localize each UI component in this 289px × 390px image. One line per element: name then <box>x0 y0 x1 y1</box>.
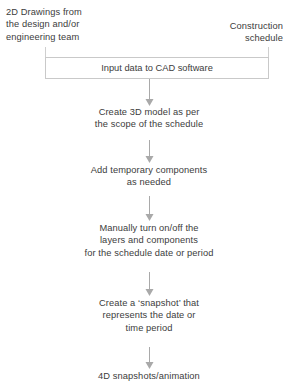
step-input-cad: Input data to CAD software <box>45 57 269 79</box>
step-create-snapshot: Create a ‘snapshot’ that represents the … <box>34 297 264 334</box>
input-schedule: Construction schedule <box>163 20 283 45</box>
arrowhead-components-to-layers <box>146 214 154 221</box>
arrowhead-layers-to-snapshot <box>146 289 154 296</box>
arrowhead-model-to-components <box>146 156 154 163</box>
input-drawings: 2D Drawings from the design and/or engin… <box>6 6 126 43</box>
arrowhead-snapshot-to-output <box>146 362 154 369</box>
flowchart-diagram: 2D Drawings from the design and/or engin… <box>0 0 289 390</box>
step-add-temporary-components: Add temporary components as needed <box>39 164 259 189</box>
step-input-cad-label: Input data to CAD software <box>101 62 213 74</box>
step-create-3d-model: Create 3D model as per the scope of the … <box>39 106 259 131</box>
output-4d-snapshots: 4D snapshots/animation <box>34 370 264 382</box>
arrowhead-cad-to-model <box>146 99 154 106</box>
step-toggle-layers: Manually turn on/off the layers and comp… <box>24 222 274 259</box>
